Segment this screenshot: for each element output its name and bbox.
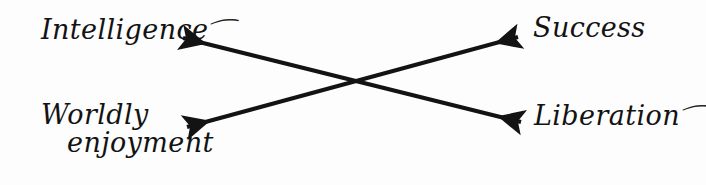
label-intelligence-swash: ⁀ (206, 20, 235, 45)
label-liberation-text: Liberation (534, 100, 680, 131)
label-intelligence: Intelligence⁀ (41, 16, 226, 45)
label-liberation-swash: ⁀ (678, 106, 706, 131)
label-worldly-enjoyment-line2: enjoyment (41, 129, 214, 158)
label-success-text: Success (533, 12, 646, 43)
label-intelligence-text: Intelligence (41, 14, 208, 45)
label-worldly-enjoyment-line1: Worldly (41, 99, 149, 130)
label-worldly-enjoyment: Worldlyenjoyment (41, 101, 214, 157)
label-success: Success (533, 14, 646, 43)
label-liberation: Liberation⁀ (534, 102, 697, 131)
